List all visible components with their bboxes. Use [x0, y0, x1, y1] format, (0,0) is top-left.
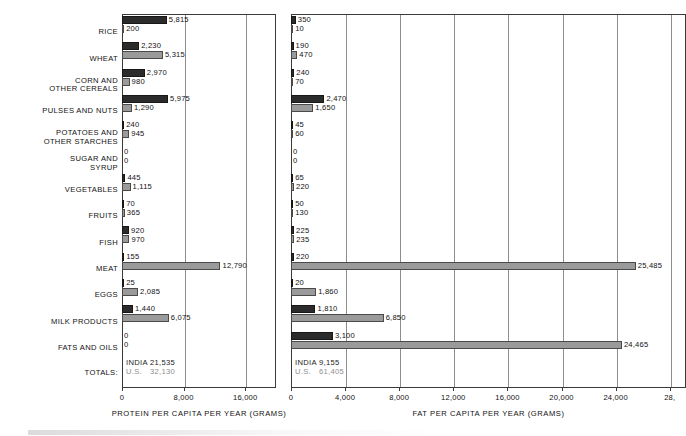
xticklabel-16000: 16,000	[495, 393, 519, 402]
value-label-us-rice: 200	[126, 25, 139, 33]
value-label-us-wheat: 5,315	[165, 51, 185, 59]
category-label-fruits: FRUITS	[0, 212, 118, 221]
xtick-12000	[453, 388, 454, 391]
xtick-8000	[184, 388, 185, 391]
category-label-fish: FISH	[0, 239, 118, 248]
value-label-us-meat: 25,485	[638, 262, 662, 270]
value-label-us-rice: 10	[295, 25, 304, 33]
bar-india-vegetables	[291, 174, 293, 182]
bar-us-rice	[122, 25, 124, 33]
value-label-india-fats-and-oils: 0	[124, 332, 128, 340]
value-label-india-milk-products: 1,810	[317, 305, 337, 313]
bar-group-corn-and-other-cereals: 2,970980	[122, 69, 276, 86]
value-label-india-vegetables: 445	[127, 174, 140, 182]
protein-total-india: INDIA21,535	[126, 358, 175, 367]
bar-us-vegetables	[291, 183, 294, 191]
value-label-india-rice: 350	[298, 16, 311, 24]
xticklabel-8000: 8,000	[174, 393, 194, 402]
fat-totals: INDIA9,155U.S.61,405	[295, 358, 344, 377]
xtick-16000	[507, 388, 508, 391]
category-label-vegetables: VEGETABLES	[0, 186, 118, 195]
bar-group-meat: 22025,485	[291, 253, 686, 270]
bar-group-wheat: 2,2305,315	[122, 42, 276, 59]
bar-india-rice	[291, 16, 296, 24]
bar-us-potatoes-and-other-starches	[122, 130, 129, 138]
bar-us-meat	[291, 262, 636, 270]
category-label-corn-and-other-cereals: CORN ANDOTHER CEREALS	[0, 77, 118, 94]
value-label-india-potatoes-and-other-starches: 45	[295, 121, 304, 129]
bar-group-potatoes-and-other-starches: 240945	[122, 121, 276, 138]
value-label-india-wheat: 2,230	[141, 42, 161, 50]
value-label-india-pulses-and-nuts: 2,470	[326, 95, 346, 103]
bar-group-vegetables: 65220	[291, 174, 686, 191]
xtick-0	[122, 388, 123, 391]
value-label-india-sugar-and-syrup: 0	[293, 148, 297, 156]
xticklabel-28000: 28,	[664, 393, 675, 402]
value-label-us-corn-and-other-cereals: 70	[295, 78, 304, 86]
bar-group-wheat: 190470	[291, 42, 686, 59]
value-label-us-sugar-and-syrup: 0	[124, 157, 128, 165]
page-caption-smudge	[28, 430, 448, 435]
bar-us-pulses-and-nuts	[122, 104, 132, 112]
bar-group-milk-products: 1,8106,850	[291, 305, 686, 322]
bar-india-fish	[291, 226, 294, 234]
totals-row-label: TOTALS:	[0, 368, 118, 377]
value-label-us-wheat: 470	[299, 51, 312, 59]
value-label-india-meat: 155	[126, 253, 139, 261]
bar-india-meat	[122, 253, 124, 261]
value-label-india-fish: 920	[131, 227, 144, 235]
value-label-india-wheat: 190	[296, 42, 309, 50]
bar-india-pulses-and-nuts	[291, 95, 324, 103]
xticklabel-24000: 24,000	[603, 393, 627, 402]
value-label-india-fruits: 50	[295, 200, 304, 208]
xtick-24000	[616, 388, 617, 391]
xticklabel-0: 0	[289, 393, 293, 402]
bar-india-rice	[122, 16, 167, 24]
value-label-us-pulses-and-nuts: 1,650	[315, 104, 335, 112]
xtick-8000	[399, 388, 400, 391]
value-label-us-potatoes-and-other-starches: 60	[295, 130, 304, 138]
value-label-us-milk-products: 6,075	[171, 314, 191, 322]
bar-us-meat	[122, 262, 220, 270]
bar-group-sugar-and-syrup: 00	[122, 148, 276, 165]
protein-bars-layer: 5,8152002,2305,3152,9709805,9751,2902409…	[122, 14, 276, 388]
bar-group-eggs: 201,860	[291, 279, 686, 296]
value-label-india-sugar-and-syrup: 0	[124, 148, 128, 156]
value-label-us-vegetables: 1,115	[133, 183, 152, 191]
category-label-milk-products: MILK PRODUCTS	[0, 318, 118, 327]
category-label-potatoes-and-other-starches: POTATOES ANDOTHER STARCHES	[0, 129, 118, 146]
value-label-us-fish: 970	[131, 236, 144, 244]
bar-india-potatoes-and-other-starches	[291, 121, 293, 129]
xticklabel-12000: 12,000	[441, 393, 465, 402]
bar-us-potatoes-and-other-starches	[291, 130, 293, 138]
bar-group-rice: 35010	[291, 16, 686, 33]
bar-us-wheat	[122, 51, 163, 59]
protein-chart-panel: 5,8152002,2305,3152,9709805,9751,2902409…	[122, 14, 276, 388]
value-label-india-fats-and-oils: 3,100	[335, 332, 355, 340]
bar-group-corn-and-other-cereals: 24070	[291, 69, 686, 86]
bar-us-wheat	[291, 51, 297, 59]
value-label-india-fruits: 70	[126, 200, 135, 208]
value-label-us-fruits: 365	[127, 209, 140, 217]
bar-us-fruits	[122, 209, 125, 217]
bar-india-corn-and-other-cereals	[122, 69, 145, 77]
category-label-sugar-and-syrup: SUGAR ANDSYRUP	[0, 155, 118, 172]
value-label-india-eggs: 20	[295, 279, 304, 287]
bar-india-meat	[291, 253, 294, 261]
protein-axis-title: PROTEIN PER CAPITA PER YEAR (GRAMS)	[112, 409, 287, 418]
value-label-us-eggs: 2,085	[140, 288, 160, 296]
fat-total-india: INDIA9,155	[295, 358, 344, 367]
value-label-us-pulses-and-nuts: 1,290	[134, 104, 154, 112]
value-label-india-milk-products: 1,440	[135, 305, 155, 313]
bar-india-eggs	[291, 279, 293, 287]
bar-us-fats-and-oils	[291, 341, 622, 349]
bar-group-fish: 225235	[291, 226, 686, 243]
fat-axis-title: FAT PER CAPITA PER YEAR (GRAMS)	[413, 409, 565, 418]
bar-us-eggs	[122, 288, 138, 296]
value-label-india-corn-and-other-cereals: 2,970	[147, 69, 167, 77]
bar-group-sugar-and-syrup: 00	[291, 148, 686, 165]
value-label-us-corn-and-other-cereals: 980	[132, 78, 145, 86]
bar-us-milk-products	[122, 314, 169, 322]
xtick-16000	[245, 388, 246, 391]
value-label-india-rice: 5,815	[169, 16, 189, 24]
